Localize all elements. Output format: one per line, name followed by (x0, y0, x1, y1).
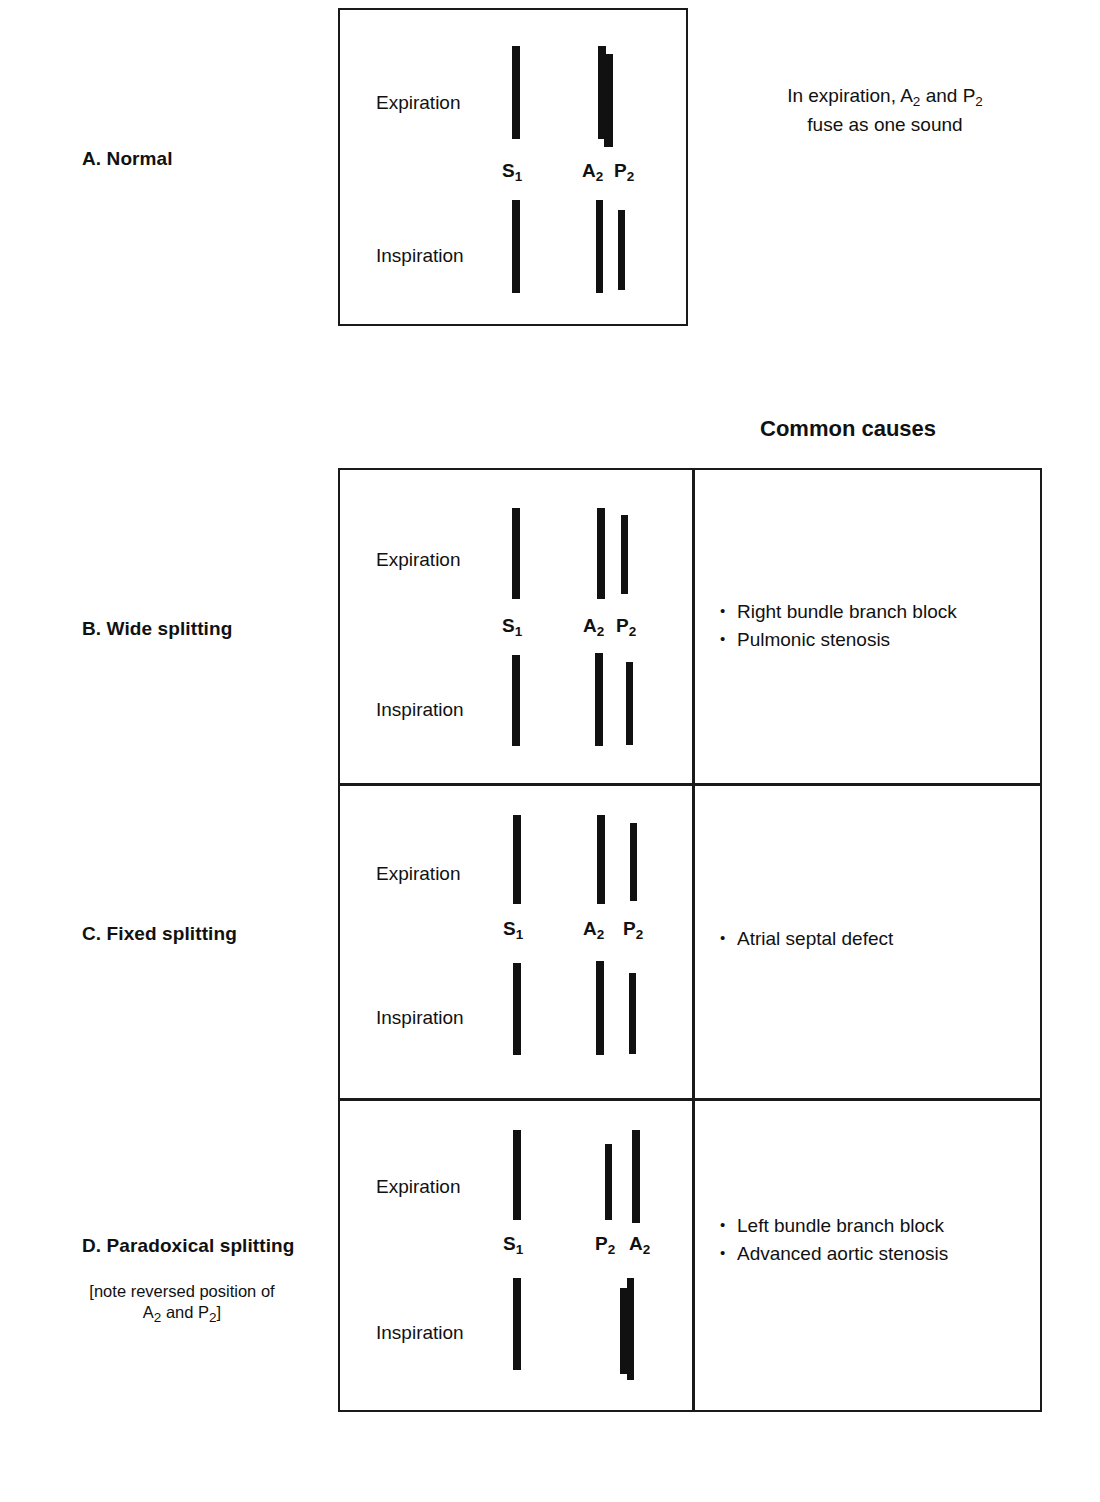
section-a-inspiration-label: Inspiration (376, 245, 464, 267)
section-b-cause-item: Pulmonic stenosis (718, 626, 957, 654)
section-a-tag-s1: S1 (502, 160, 522, 182)
section-d-inspiration-label: Inspiration (376, 1322, 464, 1344)
section-d-subnote-sub2a: 2 (154, 1310, 162, 1325)
section-d-subnote-sub2b: 2 (209, 1310, 217, 1325)
section-b-tag-a2: A2 (583, 615, 604, 637)
section-d-expiration-p2-bar (605, 1144, 612, 1220)
section-c-expiration-label: Expiration (376, 863, 461, 885)
section-a-note: In expiration, A2 and P2 fuse as one sou… (720, 82, 1050, 138)
section-c-row: Expiration Inspiration S1 A2 P2 (340, 785, 692, 1098)
section-d-tag-s1: S1 (503, 1233, 523, 1255)
section-c-expiration-p2-bar (630, 823, 637, 901)
section-d-subnote-line2b: and P (161, 1303, 209, 1321)
section-c-tag-p2-sub: 2 (636, 927, 644, 942)
section-c-tag-s1-sub: 1 (516, 927, 524, 942)
section-b-inspiration-s1-bar (512, 655, 520, 746)
section-a-tag-a2: A2 (582, 160, 603, 182)
section-c-cause-item: Atrial septal defect (718, 925, 893, 953)
section-b-tag-p2-letter: P (616, 615, 629, 636)
section-a-panel: Expiration Inspiration S1 A2 P2 (338, 8, 688, 326)
section-a-inspiration-a2-bar (596, 200, 603, 293)
section-c-tag-p2: P2 (623, 918, 643, 940)
section-a-note-line1b: and P (920, 85, 975, 106)
section-d-causes: Left bundle branch block Advanced aortic… (718, 1212, 948, 1268)
section-c-expiration-s1-bar (513, 815, 521, 904)
section-a-tag-p2: P2 (614, 160, 634, 182)
section-a-note-line1: In expiration, A (787, 85, 913, 106)
section-c-inspiration-label: Inspiration (376, 1007, 464, 1029)
section-a-inspiration-p2-bar (618, 210, 625, 290)
table-column-divider (692, 470, 695, 1410)
section-d-subnote-line1: [note reversed position of (89, 1282, 274, 1300)
section-b-expiration-s1-bar (512, 508, 520, 599)
section-a-tag-s1-sub: 1 (515, 169, 523, 184)
section-a-note-line2: fuse as one sound (807, 114, 962, 135)
section-c-tag-a2-sub: 2 (597, 927, 605, 942)
section-a-tag-a2-letter: A (582, 160, 596, 181)
section-b-tag-a2-sub: 2 (597, 624, 605, 639)
common-causes-heading: Common causes (760, 416, 936, 442)
section-b-inspiration-p2-bar (626, 662, 633, 745)
section-b-cause-item: Right bundle branch block (718, 598, 957, 626)
section-c-tag-p2-letter: P (623, 918, 636, 939)
section-b-causes: Right bundle branch block Pulmonic steno… (718, 598, 957, 654)
section-a-tag-a2-sub: 2 (596, 169, 604, 184)
section-b-tag-a2-letter: A (583, 615, 597, 636)
section-d-tag-a2-sub: 2 (643, 1242, 651, 1257)
section-a-inspiration-s1-bar (512, 200, 520, 293)
section-a-expiration-label: Expiration (376, 92, 461, 114)
section-b-tag-s1-letter: S (502, 615, 515, 636)
section-d-inspiration-a2-bar (627, 1278, 634, 1380)
section-b-expiration-a2-bar (597, 508, 605, 599)
section-d-tag-p2-letter: P (595, 1233, 608, 1254)
section-a-label: A. Normal (82, 148, 173, 170)
section-d-subnote: [note reversed position of A2 and P2] (32, 1281, 332, 1324)
section-b-tag-s1-sub: 1 (515, 624, 523, 639)
section-d-tag-s1-letter: S (503, 1233, 516, 1254)
section-c-inspiration-a2-bar (596, 961, 604, 1055)
section-d-label: D. Paradoxical splitting (82, 1235, 295, 1257)
section-d-inspiration-s1-bar (513, 1278, 521, 1370)
section-b-tag-p2-sub: 2 (629, 624, 637, 639)
section-a-note-sub1b: 2 (975, 94, 983, 109)
section-d-tag-a2: A2 (629, 1233, 650, 1255)
section-d-subnote-line2a: A (143, 1303, 154, 1321)
section-d-expiration-s1-bar (513, 1130, 521, 1220)
section-b-tag-s1: S1 (502, 615, 522, 637)
section-d-subnote-line2c: ] (217, 1303, 222, 1321)
section-d-tag-s1-sub: 1 (516, 1242, 524, 1257)
section-b-row: Expiration Inspiration S1 A2 P2 (340, 470, 692, 783)
splitting-table: Expiration Inspiration S1 A2 P2 Right bu… (338, 468, 1042, 1412)
section-a-note-sub1: 2 (913, 94, 921, 109)
section-d-expiration-a2-bar (632, 1130, 640, 1223)
section-c-inspiration-s1-bar (513, 963, 521, 1055)
section-c-tag-s1-letter: S (503, 918, 516, 939)
section-b-expiration-p2-bar (621, 515, 628, 594)
section-a-expiration-s1-bar (512, 46, 520, 139)
section-d-tag-p2: P2 (595, 1233, 615, 1255)
section-a-tag-p2-sub: 2 (627, 169, 635, 184)
section-b-inspiration-a2-bar (595, 653, 603, 746)
section-b-tag-p2: P2 (616, 615, 636, 637)
section-c-tag-a2-letter: A (583, 918, 597, 939)
section-d-row: Expiration Inspiration S1 P2 A2 (340, 1100, 692, 1412)
section-c-tag-a2: A2 (583, 918, 604, 940)
section-d-cause-item: Left bundle branch block (718, 1212, 948, 1240)
section-b-label: B. Wide splitting (82, 618, 232, 640)
section-c-label: C. Fixed splitting (82, 923, 237, 945)
section-a-expiration-p2-bar (604, 54, 613, 147)
section-c-inspiration-p2-bar (629, 973, 636, 1054)
section-b-inspiration-label: Inspiration (376, 699, 464, 721)
section-c-causes: Atrial septal defect (718, 925, 893, 953)
section-d-cause-item: Advanced aortic stenosis (718, 1240, 948, 1268)
section-d-tag-p2-sub: 2 (608, 1242, 616, 1257)
section-c-expiration-a2-bar (597, 815, 605, 904)
section-d-expiration-label: Expiration (376, 1176, 461, 1198)
section-c-tag-s1: S1 (503, 918, 523, 940)
section-b-expiration-label: Expiration (376, 549, 461, 571)
section-d-tag-a2-letter: A (629, 1233, 643, 1254)
section-a-tag-s1-letter: S (502, 160, 515, 181)
section-a-tag-p2-letter: P (614, 160, 627, 181)
